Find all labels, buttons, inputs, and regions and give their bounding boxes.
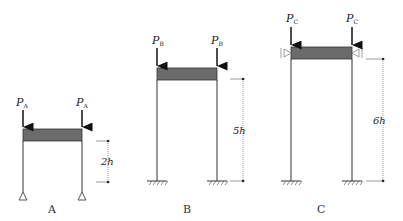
svg-text:5h: 5h [233,125,246,136]
svg-text:6h: 6h [373,115,386,126]
svg-text:PB: PB [210,34,223,47]
svg-text:C: C [317,203,325,216]
svg-text:PC: PC [285,12,298,25]
svg-text:A: A [47,203,57,216]
svg-text:PA: PA [15,96,28,109]
svg-text:PB: PB [151,34,164,47]
svg-text:B: B [183,203,191,216]
pin-support-icon [19,192,27,200]
fixed-support-icon [344,181,363,185]
roller-guide-icon [352,49,359,57]
fixed-support-icon [283,181,302,185]
frame-c: PC PC 6h C [281,12,386,216]
svg-text:PC: PC [345,12,358,25]
diagram-canvas: PA PA 2h A PB PB 5h B [0,0,403,221]
beam-b [157,68,217,80]
fixed-support-icon [209,181,228,185]
roller-guide-icon [284,49,291,57]
svg-text:PA: PA [75,96,88,109]
beam-a [23,129,82,141]
frame-a: PA PA 2h A [15,96,114,216]
pin-support-icon [78,192,86,200]
svg-text:2h: 2h [100,156,114,167]
frame-b: PB PB 5h B [147,34,246,216]
beam-c [291,47,352,59]
fixed-support-icon [149,181,168,185]
